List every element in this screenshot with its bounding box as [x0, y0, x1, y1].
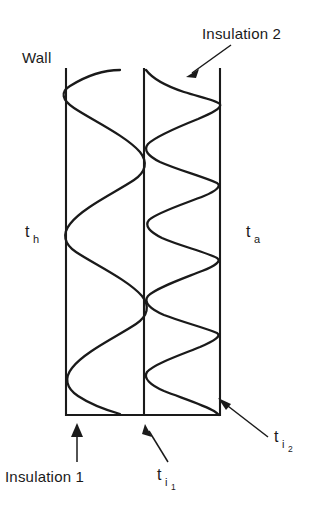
t-i2-leader-group	[218, 398, 268, 437]
insulation-2-wave-path	[146, 70, 220, 415]
t-a-label-group: t a	[246, 223, 261, 245]
t-i1-label-group: t i 1	[157, 466, 176, 492]
t-a-subscript: a	[254, 233, 261, 245]
figure-root: Wall Insulation 2 t h t a t i 2	[0, 0, 320, 509]
t-h-label-group: t h	[25, 223, 39, 245]
t-h-subscript: h	[33, 233, 39, 245]
insulation-1-arrow-head-icon	[71, 423, 83, 437]
t-i2-subscript: i	[282, 438, 284, 450]
t-i1-arrow-head-icon	[142, 424, 152, 437]
insulation-1-label: Insulation 1	[5, 468, 84, 485]
t-i2-label-group: t i 2	[274, 428, 293, 454]
insulation-2-leader-line	[192, 45, 231, 73]
t-i2-base: t	[274, 428, 279, 445]
insulation-2-leader-group	[186, 45, 231, 78]
t-a-base: t	[246, 223, 251, 240]
t-i2-sub-subscript: 2	[288, 444, 293, 454]
insulation-1-leader-group	[71, 423, 83, 462]
insulation-2-wave-group	[146, 70, 220, 415]
t-i1-base: t	[157, 466, 162, 483]
t-i1-subscript: i	[165, 476, 167, 488]
insulation-2-arrow-head-icon	[186, 69, 199, 78]
t-i1-leader-group	[142, 424, 168, 462]
t-i1-leader-line	[149, 431, 168, 462]
t-h-base: t	[25, 223, 30, 240]
t-i1-sub-subscript: 1	[171, 482, 176, 492]
insulation-1-wave-group	[64, 70, 147, 414]
insulation-1-wave-path	[64, 70, 147, 414]
insulation-2-label: Insulation 2	[202, 25, 281, 42]
insulation-temperature-diagram: Wall Insulation 2 t h t a t i 2	[0, 0, 320, 509]
wall-label: Wall	[22, 49, 51, 66]
t-i2-leader-line	[224, 403, 268, 437]
